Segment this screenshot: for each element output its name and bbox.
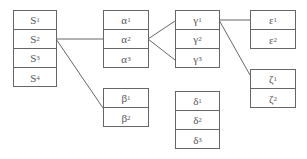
table-s: S1 S2 S3 S4 bbox=[13, 10, 57, 87]
cell-gamma2: γ2 bbox=[176, 30, 219, 49]
link-alpha2-gamma3 bbox=[148, 39, 175, 60]
table-gamma: γ1 γ2 γ3 bbox=[175, 10, 220, 68]
cell-delta3: δ3 bbox=[176, 130, 219, 149]
cell-alpha3: α3 bbox=[104, 49, 148, 68]
cell-s1: S1 bbox=[14, 11, 56, 30]
table-delta: δ1 δ2 δ3 bbox=[175, 91, 220, 149]
cell-delta1: δ1 bbox=[176, 92, 219, 111]
cell-alpha1: α1 bbox=[104, 11, 148, 30]
cell-epsilon2: ε2 bbox=[251, 30, 295, 49]
cell-gamma1: γ1 bbox=[176, 11, 219, 30]
cell-delta2: δ2 bbox=[176, 111, 219, 130]
cell-s2: S2 bbox=[14, 30, 56, 49]
cell-beta2: β2 bbox=[104, 108, 148, 127]
link-gamma1-zeta1 bbox=[219, 20, 250, 75]
cell-beta1: β1 bbox=[104, 89, 148, 108]
cell-gamma3: γ3 bbox=[176, 49, 219, 68]
cell-s3: S3 bbox=[14, 49, 56, 68]
table-alpha: α1 α2 α3 bbox=[103, 10, 149, 68]
cell-epsilon1: ε1 bbox=[251, 11, 295, 30]
link-alpha2-gamma1 bbox=[148, 21, 175, 39]
cell-alpha2: α2 bbox=[104, 30, 148, 49]
cell-zeta2: ζ2 bbox=[251, 89, 295, 108]
cell-zeta1: ζ1 bbox=[251, 70, 295, 89]
table-beta: β1 β2 bbox=[103, 88, 149, 127]
table-zeta: ζ1 ζ2 bbox=[250, 69, 296, 108]
table-epsilon: ε1 ε2 bbox=[250, 10, 296, 49]
link-s2-beta2 bbox=[56, 39, 103, 108]
cell-s4: S4 bbox=[14, 68, 56, 87]
